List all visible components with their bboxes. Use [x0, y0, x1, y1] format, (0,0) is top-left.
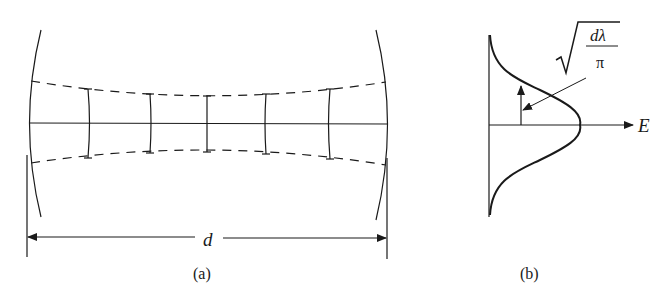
panel-b — [489, 22, 633, 217]
axis-label-e: E — [637, 115, 650, 136]
width-label-denominator: π — [596, 54, 604, 71]
resonator-diagram: d (a) dλ π E (b) — [0, 0, 669, 299]
caption-b: (b) — [520, 265, 539, 283]
width-label-numerator: dλ — [590, 26, 606, 45]
caption-a: (a) — [193, 265, 211, 283]
panel-a — [27, 30, 388, 259]
beam-envelope-top — [31, 81, 386, 96]
label-pointer — [523, 78, 586, 110]
distance-label: d — [203, 229, 213, 250]
right-mirror — [376, 30, 388, 220]
optical-axis — [29, 123, 388, 124]
sqrt-sign — [556, 22, 620, 73]
